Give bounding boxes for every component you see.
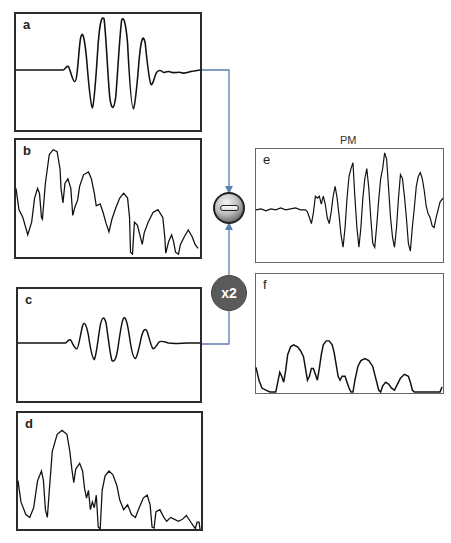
spectrum-b	[16, 140, 200, 257]
waveform-c	[18, 289, 200, 401]
waveform-a	[16, 14, 200, 130]
panel-c: c	[16, 287, 202, 403]
waveform-e	[256, 149, 443, 262]
spectrum-f	[256, 274, 443, 393]
panel-e: e	[255, 148, 444, 263]
panel-e-title: PM	[340, 134, 357, 146]
panel-a: a	[14, 12, 202, 132]
connector-c-to-scale	[201, 311, 229, 344]
subtract-operator-icon	[213, 192, 245, 224]
connector-a-to-subtract	[201, 70, 229, 190]
scale-label: x2	[221, 285, 237, 301]
minus-bar-icon	[220, 205, 239, 211]
panel-b: b	[14, 138, 202, 259]
scale-operator-icon: x2	[211, 275, 247, 311]
panel-d: d	[16, 411, 203, 531]
spectrum-d	[18, 413, 201, 529]
panel-f: f	[255, 273, 444, 394]
